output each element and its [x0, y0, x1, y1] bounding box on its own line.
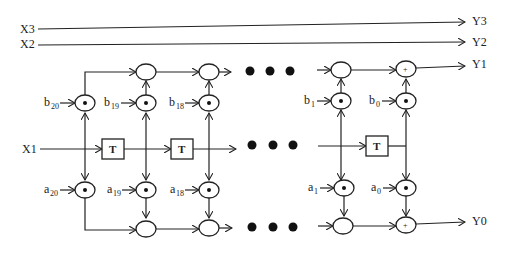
ellipsis-dot — [246, 67, 255, 76]
bottom-adder-19 — [136, 221, 156, 237]
ellipsis-dot — [289, 141, 298, 150]
svg-text:0: 0 — [376, 100, 380, 109]
delay-label: T — [109, 143, 117, 155]
bottom-adder-1 — [333, 218, 353, 234]
input-x2-label: X2 — [20, 37, 35, 51]
a-multiplier-1: a1 — [308, 180, 354, 196]
input-x1-label: X1 — [22, 142, 37, 156]
ellipsis-dot — [248, 141, 257, 150]
ellipsis-dot — [286, 67, 295, 76]
a-multiplier-20: a20 — [44, 182, 95, 198]
delay-label: T — [373, 140, 381, 152]
output-y0-label: Y0 — [472, 214, 487, 228]
svg-text:b: b — [104, 95, 110, 109]
svg-text:19: 19 — [113, 189, 121, 198]
svg-text:18: 18 — [176, 102, 184, 111]
svg-text:19: 19 — [111, 102, 119, 111]
ellipsis-dot — [266, 67, 275, 76]
output-y1-label: Y1 — [472, 57, 487, 71]
svg-text:+: + — [403, 65, 408, 74]
a-multiplier-19: a19 — [107, 182, 156, 198]
svg-text:20: 20 — [51, 102, 59, 111]
ellipsis-dot — [289, 223, 298, 232]
top-adder-18 — [199, 64, 219, 80]
svg-text:20: 20 — [50, 189, 58, 198]
svg-text:18: 18 — [176, 189, 184, 198]
x2-line — [38, 42, 465, 45]
input-x3-label: X3 — [20, 22, 35, 36]
top-adder-1 — [331, 62, 351, 78]
output-y3-label: Y3 — [472, 14, 487, 28]
filter-structure-diagram: X3 Y3 X2 Y2 X1 T T T b20 b19 b18 b1 — [0, 0, 509, 253]
svg-text:0: 0 — [377, 187, 381, 196]
output-y2-label: Y2 — [472, 35, 487, 49]
svg-text:b: b — [169, 95, 175, 109]
svg-text:b: b — [369, 93, 375, 107]
b-multiplier-1: b1 — [304, 93, 351, 109]
delay-label: T — [178, 143, 186, 155]
b-multiplier-19: b19 — [104, 95, 156, 111]
b-multiplier-0: b0 — [369, 93, 416, 109]
svg-text:b: b — [44, 95, 50, 109]
svg-text:+: + — [403, 221, 408, 230]
svg-text:1: 1 — [311, 100, 315, 109]
a-multiplier-18: a18 — [170, 182, 219, 198]
ellipsis-dot — [248, 223, 257, 232]
ellipsis-dot — [269, 141, 278, 150]
b-multiplier-18: b18 — [169, 95, 219, 111]
x3-line — [38, 22, 465, 29]
svg-text:b: b — [304, 93, 310, 107]
ellipsis-dot — [269, 223, 278, 232]
a-multiplier-0: a0 — [371, 180, 416, 196]
top-adder-19 — [136, 64, 156, 80]
b-multiplier-20: b20 — [44, 95, 95, 111]
svg-text:1: 1 — [314, 187, 318, 196]
bottom-adder-18 — [199, 220, 219, 236]
